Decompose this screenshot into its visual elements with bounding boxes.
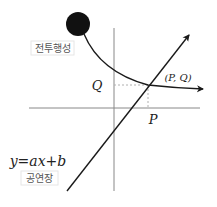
line-equation: y=ax+b [9, 153, 67, 169]
intersection-point-label: (P, Q) [164, 72, 191, 83]
planet-label: 전투행성 [35, 43, 71, 54]
venue-label: 공연장 [26, 173, 53, 184]
y-intercept-label-q: Q [92, 78, 103, 93]
battle-planet-icon [66, 12, 90, 36]
linear-path-line [67, 35, 189, 191]
diagram-canvas: 전투행성 Q P (P, Q) y=ax+b 공연장 [0, 0, 217, 207]
x-intercept-label-p: P [148, 112, 158, 127]
